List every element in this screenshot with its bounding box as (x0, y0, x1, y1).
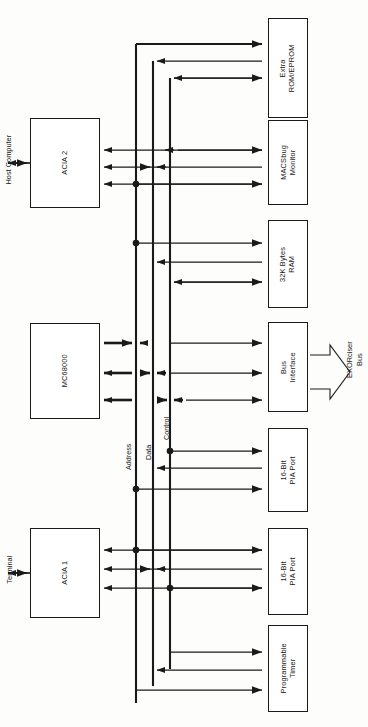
diagram-canvas: MC68000 ACIA 1 ACIA 2 Extra ROM/EPROM MA… (0, 0, 368, 727)
label-exorciser-bus-text: EXORciser Bus (345, 341, 364, 378)
label-terminal: Terminal (0, 565, 30, 574)
block-bus-interface-label: Bus Interface (279, 352, 298, 382)
macsbug-line2: Monitor (288, 150, 297, 176)
pia-top-line2: PIA Port (288, 456, 297, 484)
extra-rom-line2: ROM/EPROM (288, 44, 297, 92)
block-ram-label: 32K Bytes RAM (279, 246, 298, 281)
bus-label-data: Data (144, 460, 159, 469)
bus-label-data-text: Data (144, 445, 153, 460)
block-mc68000[interactable]: MC68000 (30, 323, 100, 419)
extra-rom-line1: Extra (279, 59, 288, 77)
block-mc68000-label: MC68000 (60, 354, 69, 387)
bus-label-address: Address (124, 470, 150, 479)
bus-interface-line1: Bus (279, 360, 288, 373)
block-macsbug-monitor-label: MACSbug Monitor (279, 145, 298, 180)
block-macsbug-monitor[interactable]: MACSbug Monitor (268, 120, 308, 205)
label-terminal-text: Terminal (5, 556, 14, 584)
bus-label-address-text: Address (124, 444, 133, 470)
block-programmable-timer[interactable]: Programmable Timer (268, 625, 308, 712)
pia-bottom-line1: 16-Bit (279, 561, 288, 581)
pia-bottom-line2: PIA Port (288, 557, 297, 585)
block-pia-port-top[interactable]: 16-Bit PIA Port (268, 428, 308, 512)
block-extra-rom-eprom-label: Extra ROM/EPROM (279, 44, 298, 92)
bus-interface-line2: Interface (288, 352, 297, 382)
timer-line1: Programmable (279, 643, 288, 693)
label-host-computer-text: Host Computer (4, 135, 13, 185)
block-acia-2[interactable]: ACIA 2 (30, 118, 100, 208)
block-ram[interactable]: 32K Bytes RAM (268, 220, 308, 308)
exorciser-line1: EXORciser (345, 341, 354, 378)
ram-line2: RAM (288, 256, 297, 273)
block-extra-rom-eprom[interactable]: Extra ROM/EPROM (268, 18, 308, 118)
block-programmable-timer-label: Programmable Timer (279, 643, 298, 693)
label-exorciser-bus: EXORciser Bus (336, 350, 362, 400)
block-acia-1-label: ACIA 1 (60, 561, 69, 585)
timer-line2: Timer (288, 659, 297, 678)
block-pia-port-bottom-label: 16-Bit PIA Port (279, 557, 298, 585)
bus-label-control-text: Control (162, 417, 171, 440)
exorciser-line2: Bus (354, 353, 363, 366)
block-pia-port-bottom[interactable]: 16-Bit PIA Port (268, 528, 308, 615)
label-host-computer: Host Computer (0, 155, 34, 164)
block-acia-2-label: ACIA 2 (60, 151, 69, 175)
block-pia-port-top-label: 16-Bit PIA Port (279, 456, 298, 484)
ram-line1: 32K Bytes (279, 246, 288, 281)
bus-label-control: Control (162, 440, 185, 449)
block-acia-1[interactable]: ACIA 1 (30, 528, 100, 618)
pia-top-line1: 16-Bit (279, 460, 288, 480)
macsbug-line1: MACSbug (279, 145, 288, 180)
block-bus-interface[interactable]: Bus Interface (268, 322, 308, 412)
